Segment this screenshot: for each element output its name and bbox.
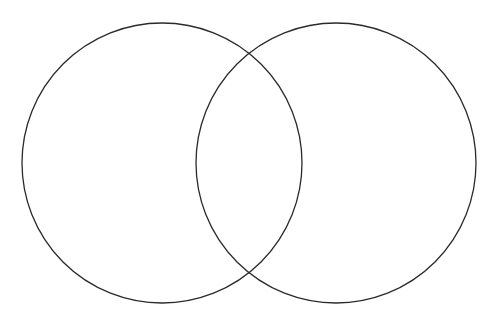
venn-canvas <box>0 0 492 325</box>
venn-diagram <box>0 0 492 325</box>
right-circle <box>196 23 476 303</box>
left-circle <box>22 23 302 303</box>
